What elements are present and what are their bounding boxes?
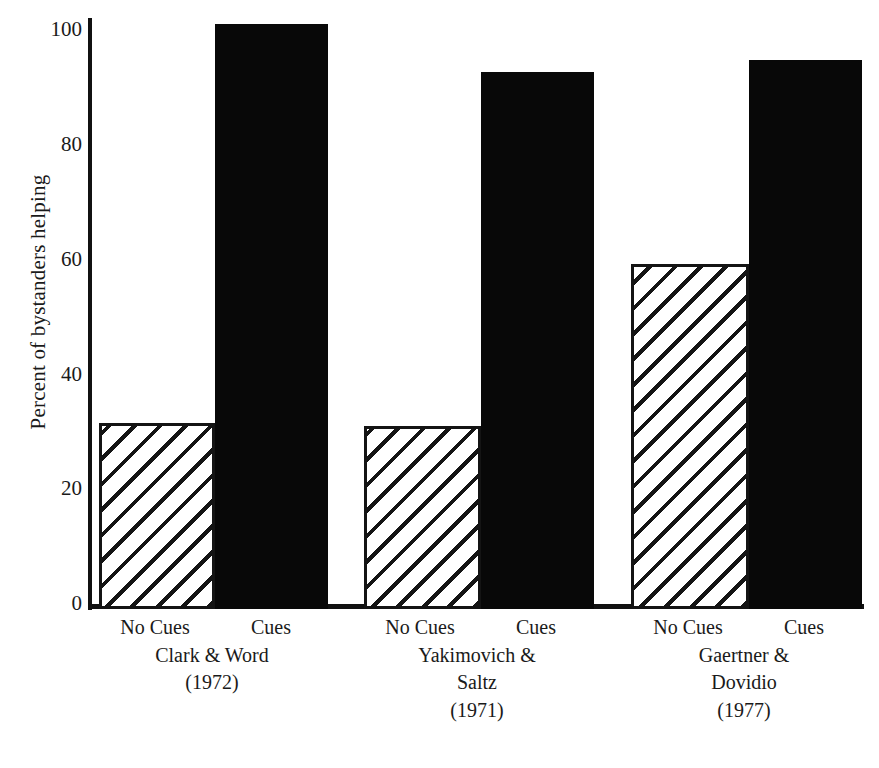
label-no-cues: No Cues — [628, 614, 748, 642]
bar-chart: Percent of bystanders helping 100 80 60 … — [0, 0, 879, 768]
cue-row: No Cues Cues — [92, 614, 332, 642]
study-name-line-1: Clark & Word — [92, 642, 332, 670]
bar-gaertner-dovidio-cues — [749, 60, 862, 609]
study-year-line: (1972) — [92, 669, 332, 697]
cue-row: No Cues Cues — [624, 614, 864, 642]
study-name-line-2: Saltz — [357, 669, 597, 697]
bar-yakimovich-saltz-no-cues — [364, 426, 481, 609]
label-cues: Cues — [748, 614, 860, 642]
bar-clark-word-cues — [215, 24, 328, 609]
plot-area — [0, 0, 879, 609]
x-group-gaertner-dovidio: No Cues Cues Gaertner & Dovidio (1977) — [624, 614, 864, 724]
study-name-line-1: Yakimovich & — [357, 642, 597, 670]
label-no-cues: No Cues — [361, 614, 479, 642]
study-name-line-2: Dovidio — [624, 669, 864, 697]
label-cues: Cues — [214, 614, 328, 642]
study-year-line: (1977) — [624, 697, 864, 725]
x-group-yakimovich-saltz: No Cues Cues Yakimovich & Saltz (1971) — [357, 614, 597, 724]
study-year-line: (1971) — [357, 697, 597, 725]
x-group-clark-word: No Cues Cues Clark & Word (1972) — [92, 614, 332, 697]
label-no-cues: No Cues — [96, 614, 214, 642]
bar-yakimovich-saltz-cues — [481, 72, 594, 609]
cue-row: No Cues Cues — [357, 614, 597, 642]
label-cues: Cues — [479, 614, 593, 642]
study-name-line-1: Gaertner & — [624, 642, 864, 670]
bar-gaertner-dovidio-no-cues — [631, 264, 749, 609]
bar-clark-word-no-cues — [99, 423, 215, 609]
